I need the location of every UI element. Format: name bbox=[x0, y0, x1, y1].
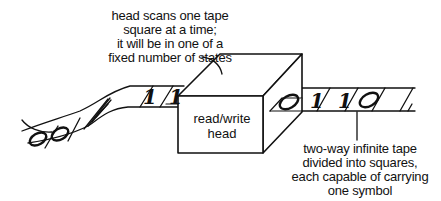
symbol-1: 1 bbox=[338, 89, 352, 113]
head-caption: head scans one tape square at a time; it… bbox=[70, 9, 270, 65]
caption-line: fixed number of states bbox=[70, 51, 270, 65]
symbol-0 bbox=[49, 125, 70, 144]
caption-line: it will be in one of a bbox=[70, 37, 270, 51]
symbol-0 bbox=[357, 90, 380, 110]
caption-line: one symbol bbox=[280, 184, 440, 198]
box-label-line: read/write bbox=[180, 111, 264, 126]
symbol-1: 1 bbox=[310, 89, 324, 113]
caption-line: square at a time; bbox=[70, 23, 270, 37]
caption-line: each capable of carrying bbox=[280, 170, 440, 184]
box-label-line: head bbox=[180, 126, 264, 141]
symbol-0 bbox=[27, 130, 48, 149]
tape-caption: two-way infinite tape divided into squar… bbox=[280, 142, 440, 198]
caption-line: head scans one tape bbox=[70, 9, 270, 23]
read-write-head-label: read/write head bbox=[180, 111, 264, 141]
caption-line: two-way infinite tape bbox=[280, 142, 440, 156]
symbol-1: 1 bbox=[143, 85, 157, 109]
symbol-1: 1 bbox=[169, 85, 183, 109]
caption-line: divided into squares, bbox=[280, 156, 440, 170]
